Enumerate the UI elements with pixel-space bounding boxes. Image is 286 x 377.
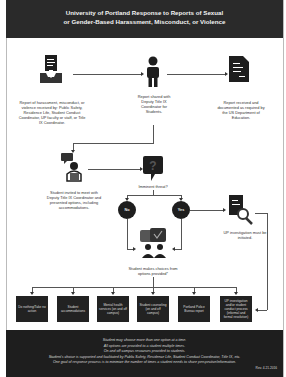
connector-line (32, 287, 237, 288)
shared-caption: Report shared with Deputy Title IX Coord… (133, 94, 175, 114)
arrow-down (71, 292, 75, 295)
arrow-left (172, 247, 175, 251)
connector-line (73, 74, 141, 75)
arrow-left (255, 308, 258, 312)
question-bubble-icon: ? (143, 156, 163, 182)
option-box: Student accommodations (57, 296, 89, 322)
title-line-1: University of Portland Response to Repor… (6, 9, 283, 18)
arrow-right (223, 208, 226, 212)
page-footer: Student may choose more than one option … (6, 330, 283, 377)
option-box: Portland Police Bureau report (178, 296, 210, 322)
title-line-2: or Gender-Based Harassment, Misconduct, … (6, 18, 283, 27)
svg-text:?: ? (149, 159, 156, 173)
threat-caption: Imminent threat? (128, 184, 178, 189)
arrow-right (141, 72, 144, 76)
connector-line (258, 310, 267, 311)
arrow-down (151, 292, 155, 295)
person-icon (144, 56, 162, 88)
arrow-right (133, 247, 136, 251)
people-chat-icon (138, 228, 170, 260)
connector-line (181, 219, 182, 249)
yes-node: Yes (172, 201, 190, 219)
connector-line (255, 213, 267, 214)
connector-line (175, 249, 182, 250)
inbox-document-icon (40, 55, 62, 85)
arrow-right (225, 72, 228, 76)
connector-line (167, 74, 225, 75)
meeting-person-icon (61, 153, 85, 183)
document-icon (229, 56, 249, 82)
invited-caption: Student invited to meet with Deputy Titl… (44, 190, 104, 210)
revision-label: Rev. 4.21.2016 (256, 366, 277, 372)
no-node: No (118, 201, 136, 219)
connector-line (73, 143, 154, 144)
report-caption: Report of harassment, misconduct, or vio… (18, 100, 86, 125)
connector-line (190, 210, 223, 211)
arrow-down (192, 292, 196, 295)
option-box: UP investigation and/or student conduct … (220, 296, 252, 322)
option-box: Mental health services (on and off campu… (97, 296, 129, 322)
connector-line (127, 195, 181, 196)
option-box: Do nothing/Take no action (16, 296, 48, 322)
footer-line: One goal of response process is to minim… (6, 360, 283, 366)
connector-line (153, 125, 154, 144)
investigation-caption: UP investigation must be initiated. (220, 230, 270, 240)
connector-line (127, 219, 128, 249)
connector-line (267, 213, 268, 310)
documented-caption: Report received and documented as requir… (217, 100, 265, 120)
connector-line (88, 169, 140, 170)
arrow-down (111, 292, 115, 295)
choice-caption: Student makes choices from options provi… (128, 266, 178, 276)
arrow-down (234, 292, 238, 295)
document-magnifier-icon (229, 195, 255, 225)
arrow-down (30, 292, 34, 295)
option-box: Student counseling (on and off campus) (137, 296, 169, 322)
page-header: University of Portland Response to Repor… (6, 0, 283, 38)
connector-line (153, 277, 154, 287)
